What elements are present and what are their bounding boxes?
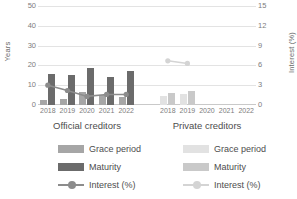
interest-marker <box>65 88 70 93</box>
interest-line-private <box>168 61 188 64</box>
legend-label: Grace period <box>89 144 141 154</box>
y-tick-right: 3 <box>258 81 278 89</box>
legend-line-icon <box>183 181 209 189</box>
x-tick-label: 2019 <box>178 107 198 114</box>
legend-label: Grace period <box>214 144 266 154</box>
y-tick-right: 12 <box>258 22 278 30</box>
legend-swatch-icon <box>58 145 84 153</box>
interest-marker <box>45 83 50 88</box>
group-caption-private: Private creditors <box>158 120 256 131</box>
legend-item[interactable]: Interest (%) <box>58 176 141 194</box>
y-tick-right: 6 <box>258 61 278 69</box>
y-tick-right: 0 <box>258 101 278 109</box>
chart-container: Years Interest (%) 50403020100 15129630 … <box>0 0 297 199</box>
x-tick-label: 2020 <box>77 107 97 114</box>
y-axis-right-ticks: 15129630 <box>258 0 278 115</box>
legend-swatch-icon <box>58 163 84 171</box>
interest-lines-layer <box>38 6 256 105</box>
y-tick-left: 40 <box>16 22 36 30</box>
y-tick-left: 0 <box>16 101 36 109</box>
y-tick-left: 50 <box>16 2 36 10</box>
x-tick-label: 2020 <box>197 107 217 114</box>
legend-label: Interest (%) <box>89 180 136 190</box>
legend-item[interactable]: Interest (%) <box>183 176 266 194</box>
y-tick-left: 30 <box>16 42 36 50</box>
y-axis-right-title: Interest (%) <box>287 25 296 81</box>
x-axis-labels: 2018201920202021202220182019202020212022 <box>38 107 256 119</box>
legend-label: Interest (%) <box>214 180 261 190</box>
x-tick-label: 2018 <box>38 107 58 114</box>
plot-area <box>38 6 256 105</box>
interest-marker <box>185 61 190 66</box>
interest-marker <box>124 92 129 97</box>
legend-swatch-icon <box>183 163 209 171</box>
group-captions: Official creditorsPrivate creditors <box>0 120 297 136</box>
x-tick-label: 2022 <box>116 107 136 114</box>
x-tick-label: 2019 <box>58 107 78 114</box>
interest-marker <box>165 58 170 63</box>
y-axis-left-ticks: 50403020100 <box>16 0 36 115</box>
legend-label: Maturity <box>89 162 121 172</box>
legend-item[interactable]: Grace period <box>183 140 266 158</box>
group-caption-official: Official creditors <box>38 120 136 131</box>
legend-swatch-icon <box>183 145 209 153</box>
y-axis-left-title: Years <box>3 32 12 72</box>
legend-line-icon <box>58 181 84 189</box>
legend-item[interactable]: Maturity <box>58 158 141 176</box>
y-tick-right: 15 <box>258 2 278 10</box>
y-tick-right: 9 <box>258 42 278 50</box>
y-tick-left: 20 <box>16 61 36 69</box>
x-tick-label: 2018 <box>158 107 178 114</box>
x-tick-label: 2022 <box>236 107 256 114</box>
x-tick-label: 2021 <box>217 107 237 114</box>
chart-legend: Grace periodMaturityInterest (%)Grace pe… <box>0 140 297 196</box>
x-tick-label: 2021 <box>97 107 117 114</box>
legend-item[interactable]: Grace period <box>58 140 141 158</box>
legend-label: Maturity <box>214 162 246 172</box>
legend-private: Grace periodMaturityInterest (%) <box>183 140 266 194</box>
y-tick-left: 10 <box>16 81 36 89</box>
interest-marker <box>104 92 109 97</box>
legend-official: Grace periodMaturityInterest (%) <box>58 140 141 194</box>
legend-item[interactable]: Maturity <box>183 158 266 176</box>
interest-marker <box>84 94 89 99</box>
